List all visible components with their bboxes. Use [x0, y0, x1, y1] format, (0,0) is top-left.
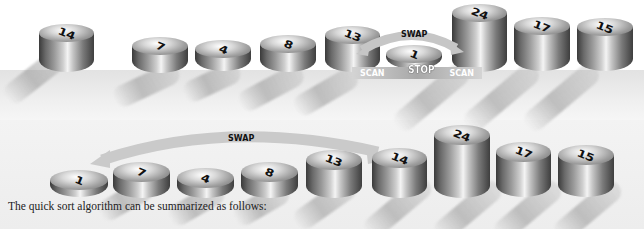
- cylinder-value: 17: [513, 143, 533, 161]
- cylinder-value: 8: [263, 165, 275, 179]
- swap-label: SWAP: [401, 30, 427, 39]
- cylinder-value: 1: [73, 173, 85, 187]
- cylinder-r1-0: 14: [39, 24, 94, 72]
- cylinder-value: 8: [282, 37, 294, 51]
- cylinder-value: 17: [532, 17, 552, 35]
- cylinder-value: 4: [199, 171, 211, 185]
- cylinder-value: 24: [469, 4, 489, 22]
- cylinder-r2-0: 1: [50, 170, 108, 197]
- cylinder-r1-1: 7: [132, 37, 188, 73]
- cylinder-r2-2: 4: [177, 168, 234, 198]
- cylinder-value: 7: [154, 39, 166, 53]
- cylinder-r1-8: 15: [577, 18, 633, 71]
- cylinder-value: 15: [595, 18, 615, 36]
- stop-label: STOP: [408, 63, 434, 76]
- cylinder-r2-4: 13: [306, 150, 362, 198]
- cylinder-r1-7: 17: [514, 17, 570, 71]
- cylinder-value: 4: [217, 42, 229, 56]
- cylinder-r2-8: 15: [558, 145, 614, 197]
- cylinder-r2-5: 14: [372, 148, 427, 198]
- cylinder-value: 7: [135, 165, 147, 179]
- scan-right-label: SCAN: [441, 69, 482, 78]
- cylinder-value: 14: [389, 149, 409, 167]
- scan-left-label: SCAN: [352, 69, 393, 78]
- cylinder-r2-1: 7: [113, 162, 170, 198]
- cylinder-r2-7: 17: [496, 142, 551, 197]
- swap-label: SWAP: [228, 134, 254, 143]
- cylinder-r1-3: 8: [260, 35, 316, 72]
- cylinder-r2-6: 24: [434, 125, 490, 198]
- cylinder-value: 15: [576, 146, 596, 164]
- caption-text: The quick sort algorithm can be summariz…: [8, 200, 267, 212]
- cylinder-value: 14: [56, 24, 76, 42]
- cylinder-value: 24: [452, 126, 472, 144]
- cylinder-value: 13: [324, 151, 344, 169]
- cylinder-r1-2: 4: [195, 40, 251, 71]
- cylinder-r2-3: 8: [241, 162, 298, 198]
